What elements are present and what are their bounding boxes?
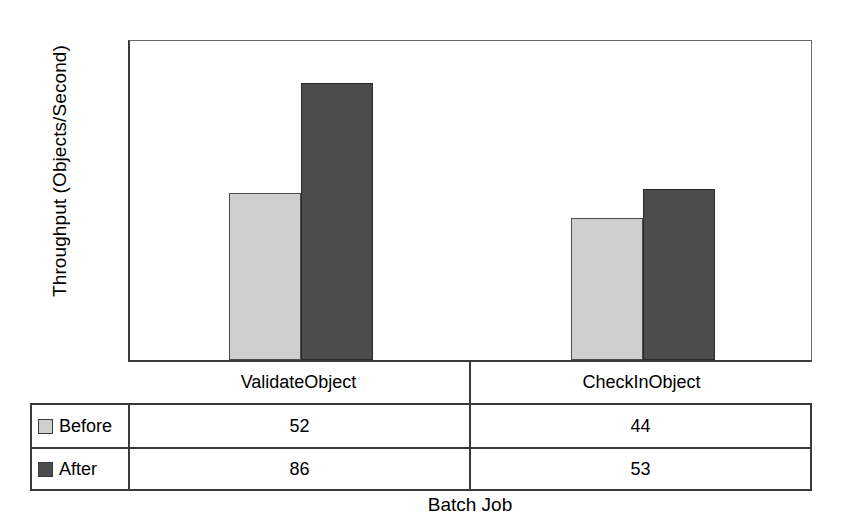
- x-axis-title: Batch Job: [128, 494, 812, 516]
- category-header-row: ValidateObject CheckInObject: [128, 362, 812, 403]
- legend-label-after: After: [59, 459, 97, 480]
- category-label-checkinobject: CheckInObject: [469, 362, 812, 403]
- legend-label-before: Before: [59, 416, 112, 437]
- bar-checkinobject-before: [571, 218, 643, 360]
- bar-validateobject-before: [229, 193, 301, 360]
- cell-before-validateobject: 52: [130, 405, 469, 447]
- bar-chart-figure: Throughput (Objects/Second) 100 80 60 40…: [0, 0, 841, 523]
- table-row-after: After 86 53: [30, 447, 812, 491]
- y-axis-title: Throughput (Objects/Second): [49, 1, 71, 341]
- data-table: ValidateObject CheckInObject Before 52 4…: [30, 362, 812, 490]
- cell-after-validateobject: 86: [130, 449, 469, 489]
- table-row-before: Before 52 44: [30, 403, 812, 447]
- legend-swatch-before-icon: [38, 419, 53, 434]
- bar-validateobject-after: [301, 83, 373, 360]
- bar-checkinobject-after: [643, 189, 715, 360]
- cell-before-checkinobject: 44: [469, 405, 810, 447]
- legend-entry-before: Before: [32, 405, 130, 447]
- plot-area: [128, 40, 812, 362]
- legend-swatch-after-icon: [38, 462, 53, 477]
- legend-entry-after: After: [32, 449, 130, 489]
- cell-after-checkinobject: 53: [469, 449, 810, 489]
- category-label-validateobject: ValidateObject: [128, 362, 469, 403]
